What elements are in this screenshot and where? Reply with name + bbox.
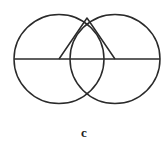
geometry-diagram	[0, 0, 168, 145]
figure-caption: c	[0, 125, 168, 141]
